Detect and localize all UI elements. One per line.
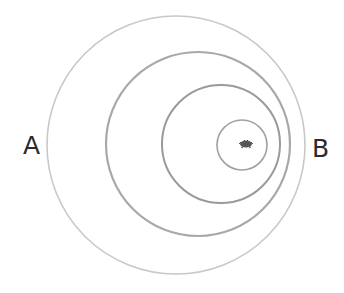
nested-circles-diagram: A B: [0, 0, 344, 293]
third-circle: [162, 85, 280, 203]
center-mark-icon: [239, 140, 253, 148]
label-a: A: [23, 131, 40, 160]
second-circle: [106, 52, 290, 236]
label-b: B: [312, 134, 329, 163]
